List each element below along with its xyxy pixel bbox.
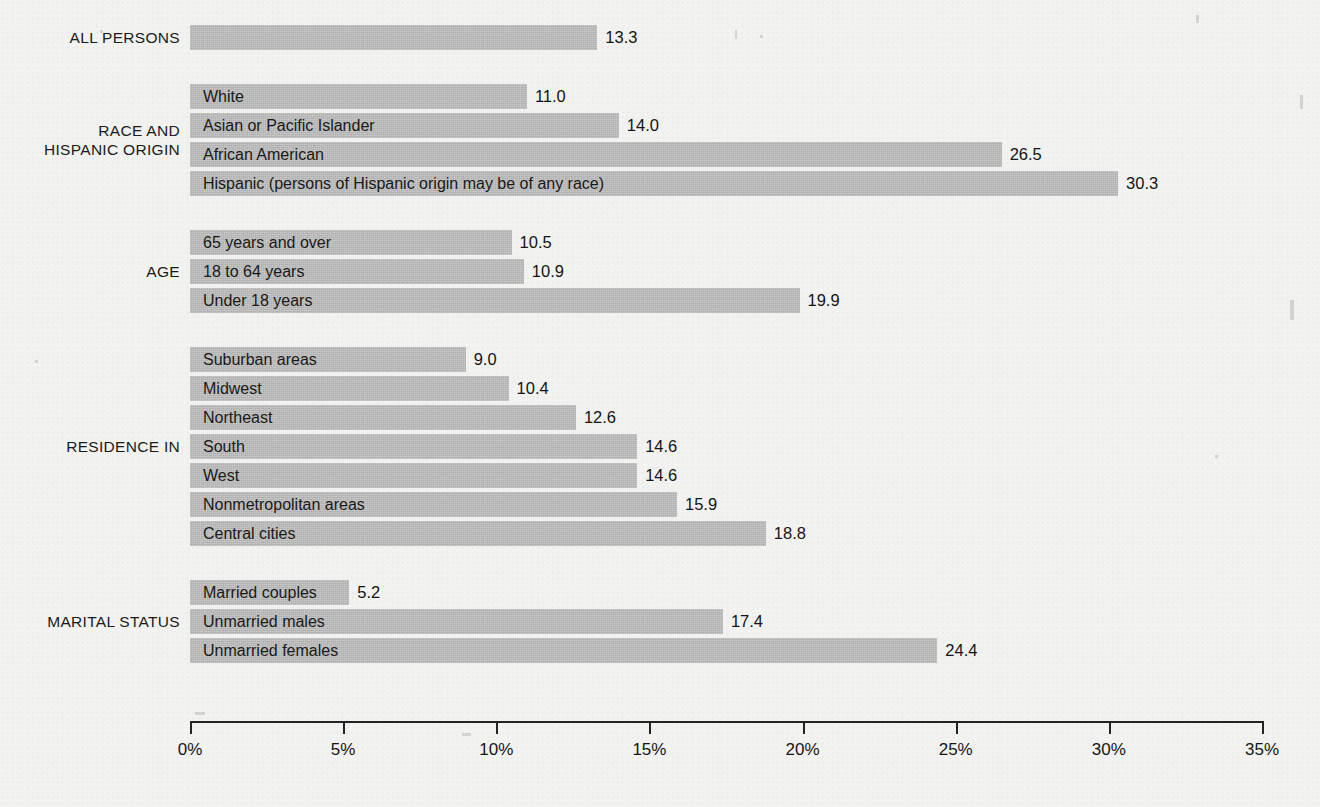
bar-category-label: 65 years and over [203,230,331,255]
bar-value-label: 24.4 [945,638,977,663]
bar-category-label: Nonmetropolitan areas [203,492,365,517]
bar-value-label: 15.9 [685,492,717,517]
group-label-residence-in: RESIDENCE IN [0,437,180,456]
bar-value-label: 18.8 [774,521,806,546]
poverty-rate-bar-chart: 13.3White11.0Asian or Pacific Islander14… [0,0,1320,807]
bar-value-label: 12.6 [584,405,616,430]
group-label-all-persons: ALL PERSONS [0,28,180,47]
bar-value-label: 5.2 [357,580,380,605]
bar-rect [190,25,597,50]
bar-value-label: 14.0 [627,113,659,138]
bar-category-label: 18 to 64 years [203,259,304,284]
x-axis-tick-label: 30% [1069,740,1149,760]
bar-value-label: 17.4 [731,609,763,634]
bar-rect [190,434,637,459]
bar-rect [190,463,637,488]
bar-value-label: 26.5 [1010,142,1042,167]
x-axis-tick-label: 20% [763,740,843,760]
x-axis-tick [1262,721,1264,734]
bar-category-label: African American [203,142,324,167]
x-axis-tick [956,721,958,734]
bar-value-label: 14.6 [645,463,677,488]
x-axis-tick [1109,721,1111,734]
group-label-marital-status: MARITAL STATUS [0,612,180,631]
bar-category-label: Suburban areas [203,347,317,372]
x-axis-tick [343,721,345,734]
bar-category-label: Midwest [203,376,262,401]
x-axis-tick-label: 5% [303,740,383,760]
x-axis-tick-label: 35% [1222,740,1302,760]
bar-value-label: 13.3 [605,25,637,50]
x-axis-tick-label: 0% [150,740,230,760]
bar-category-label: West [203,463,239,488]
bar-value-label: 9.0 [474,347,497,372]
bar-value-label: 10.9 [532,259,564,284]
x-axis-line [190,721,1262,723]
x-axis-tick [649,721,651,734]
bar-value-label: 10.4 [517,376,549,401]
x-axis-tick [190,721,192,734]
bar-category-label: Asian or Pacific Islander [203,113,375,138]
bar-category-label: Unmarried females [203,638,338,663]
bar-value-label: 19.9 [808,288,840,313]
bar-category-label: Central cities [203,521,295,546]
bar-value-label: 10.5 [520,230,552,255]
x-axis-tick-label: 10% [456,740,536,760]
bar-category-label: Northeast [203,405,272,430]
x-axis-tick-label: 15% [609,740,689,760]
bar-category-label: South [203,434,245,459]
bar-value-label: 30.3 [1126,171,1158,196]
bar-value-label: 11.0 [535,84,566,109]
bar-category-label: Hispanic (persons of Hispanic origin may… [203,171,604,196]
bar-category-label: White [203,84,244,109]
bar-category-label: Under 18 years [203,288,312,313]
bar-value-label: 14.6 [645,434,677,459]
x-axis-tick-label: 25% [916,740,996,760]
group-label-race-and-hispanic-origin: RACE AND HISPANIC ORIGIN [0,121,180,159]
bar-category-label: Unmarried males [203,609,325,634]
bar-category-label: Married couples [203,580,317,605]
group-label-age: AGE [0,262,180,281]
x-axis-tick [803,721,805,734]
x-axis-tick [496,721,498,734]
